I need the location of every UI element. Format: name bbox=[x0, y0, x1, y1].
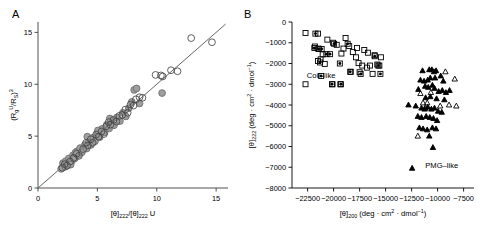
panel-a-y-tick-label: 0 bbox=[28, 184, 32, 193]
data-point bbox=[174, 68, 181, 75]
panel-b-y-tick-label: −2000 bbox=[265, 59, 286, 68]
data-point bbox=[434, 96, 439, 101]
panel-a-letter: A bbox=[12, 8, 19, 20]
panel-b-x-tick-label: −17500 bbox=[347, 194, 372, 203]
panel-a-x-tick-label: 10 bbox=[153, 194, 161, 203]
data-point bbox=[432, 75, 437, 80]
data-point bbox=[188, 35, 195, 42]
data-point bbox=[325, 37, 330, 42]
data-point-center-dot bbox=[319, 61, 322, 64]
data-point-center-dot bbox=[359, 72, 362, 75]
panel-a: 051015051015[θ]222/[θ]222 U(RgU/RS)3 A bbox=[0, 0, 242, 239]
data-point bbox=[168, 67, 175, 74]
panel-b-x-tick-label: −22500 bbox=[295, 194, 320, 203]
data-point-center-dot bbox=[314, 32, 317, 35]
panel-b-x-tick-label: −10000 bbox=[425, 194, 450, 203]
panel-b-x-tick-label: −12500 bbox=[399, 194, 424, 203]
data-point bbox=[452, 76, 457, 81]
data-point bbox=[441, 78, 446, 83]
panel-b-series-filled-triangles bbox=[406, 67, 452, 170]
panel-a-y-axis-title: (RgU/RS)3 bbox=[8, 89, 19, 121]
data-point bbox=[130, 102, 137, 109]
annotation-coil-like: Coil–like bbox=[307, 71, 336, 80]
data-point bbox=[370, 71, 375, 76]
data-point-center-dot bbox=[329, 53, 332, 56]
data-point bbox=[442, 97, 447, 102]
data-point bbox=[124, 109, 131, 116]
data-point-center-dot bbox=[333, 42, 336, 45]
data-point-center-dot bbox=[338, 62, 341, 65]
data-point-center-dot bbox=[320, 48, 323, 51]
data-point bbox=[159, 90, 166, 97]
data-point bbox=[378, 55, 383, 60]
data-point bbox=[416, 87, 421, 92]
panel-b-y-tick-label: −8000 bbox=[265, 184, 286, 193]
data-point bbox=[413, 103, 418, 108]
panel-a-x-axis-title: [θ]222/[θ]222 U bbox=[111, 209, 156, 219]
panel-b-x-tick-label: −20000 bbox=[321, 194, 346, 203]
data-point bbox=[420, 68, 425, 73]
data-point bbox=[341, 46, 346, 51]
data-point bbox=[454, 103, 459, 108]
panel-b-y-tick-label: −5000 bbox=[265, 121, 286, 130]
panel-a-x-tick-label: 5 bbox=[95, 194, 99, 203]
panel-a-series-open-circles bbox=[59, 35, 215, 171]
data-point bbox=[303, 31, 308, 36]
panel-b-x-tick-label: −15000 bbox=[373, 194, 398, 203]
panel-b-y-axis-title: [θ]222 (deg · cm2 · dmol−1) bbox=[246, 61, 257, 148]
data-point-center-dot bbox=[331, 83, 334, 86]
data-point bbox=[339, 51, 344, 56]
panel-b-y-tick-label: −4000 bbox=[265, 101, 286, 110]
panel-b-y-tick-label: −7000 bbox=[265, 163, 286, 172]
panel-a-x-tick-label: 15 bbox=[212, 194, 220, 203]
panel-b-y-tick-label: −6000 bbox=[265, 142, 286, 151]
data-point-center-dot bbox=[379, 72, 382, 75]
panel-b-plot: 0−1000−2000−3000−4000−5000−6000−7000−800… bbox=[242, 0, 484, 239]
data-point bbox=[139, 94, 146, 101]
panel-a-plot: 051015051015[θ]222/[θ]222 U(RgU/RS)3 bbox=[0, 0, 242, 239]
panel-b-y-tick-label: 0 bbox=[282, 18, 286, 27]
data-point bbox=[427, 133, 432, 138]
data-point bbox=[303, 82, 308, 87]
data-point bbox=[447, 88, 452, 93]
panel-b-letter: B bbox=[244, 8, 251, 20]
data-point-center-dot bbox=[377, 64, 380, 67]
data-point bbox=[440, 88, 445, 93]
data-point bbox=[353, 55, 358, 60]
data-point bbox=[159, 73, 166, 80]
data-point-center-dot bbox=[339, 83, 342, 86]
data-point bbox=[89, 139, 96, 146]
data-point bbox=[443, 69, 448, 74]
data-point bbox=[446, 102, 451, 107]
data-point bbox=[423, 95, 428, 100]
data-point bbox=[415, 133, 420, 138]
data-point bbox=[133, 85, 140, 92]
data-point bbox=[425, 100, 430, 105]
panel-b-x-axis-title: [θ]200 (deg · cm2 · dmol−1) bbox=[340, 208, 427, 219]
panel-a-y-tick-label: 10 bbox=[24, 80, 32, 89]
panel-a-y-tick-label: 5 bbox=[28, 132, 32, 141]
data-point bbox=[438, 103, 443, 108]
annotation-pmg-like: PMG–like bbox=[425, 161, 458, 170]
panel-b: 0−1000−2000−3000−4000−5000−6000−7000−800… bbox=[242, 0, 484, 239]
data-point-center-dot bbox=[313, 46, 316, 49]
data-point bbox=[343, 35, 348, 40]
panel-a-y-tick-label: 15 bbox=[24, 28, 32, 37]
data-point bbox=[209, 39, 216, 46]
data-point-center-dot bbox=[346, 42, 349, 45]
figure-root: 051015051015[θ]222/[θ]222 U(RgU/RS)3 A 0… bbox=[0, 0, 484, 239]
data-point-center-dot bbox=[373, 55, 376, 58]
panel-b-x-tick-label: −7500 bbox=[453, 194, 474, 203]
panel-a-x-tick-label: 0 bbox=[36, 194, 40, 203]
data-point bbox=[101, 131, 108, 138]
data-point-center-dot bbox=[349, 70, 352, 73]
data-point bbox=[76, 152, 83, 159]
data-point bbox=[406, 102, 411, 107]
data-point bbox=[320, 52, 325, 57]
panel-b-y-tick-label: −1000 bbox=[265, 38, 286, 47]
data-point bbox=[409, 165, 414, 170]
panel-b-y-tick-label: −3000 bbox=[265, 80, 286, 89]
data-point bbox=[430, 145, 435, 150]
